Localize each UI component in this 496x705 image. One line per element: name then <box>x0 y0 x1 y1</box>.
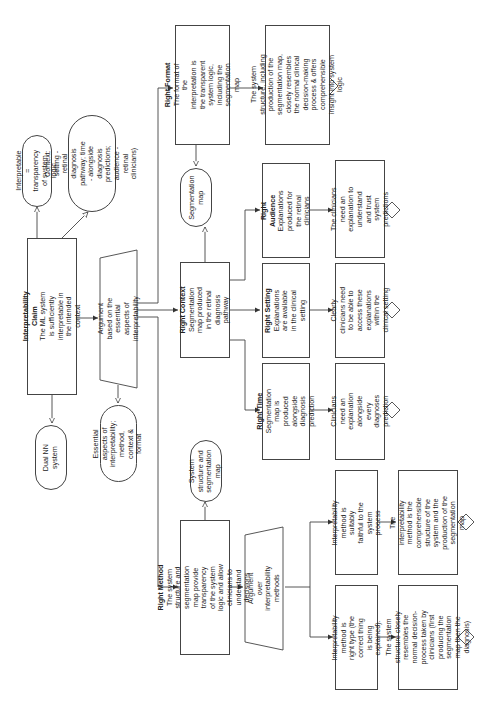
claim-text: The ML system is sufficiently interpreta… <box>39 292 82 342</box>
right-method-text: The system structure and segmentation ma… <box>166 563 252 611</box>
faithful-text: Interpretability method is suitably fait… <box>331 500 383 545</box>
claim-title: Interpretability Claim <box>22 292 39 342</box>
right-setting-text: Explanations are available in the clinic… <box>273 287 308 333</box>
argument-essential-text: Argument based on the essential aspects … <box>97 297 140 342</box>
right-format-text: The format of the interpretation is the … <box>172 58 241 111</box>
faithful-goal: Interpretability method is suitably fait… <box>335 470 378 575</box>
right-audience-text: Explanations produced for the retinal cl… <box>277 188 312 234</box>
right-format-solution-text: The system structure, including producti… <box>250 53 345 116</box>
right-time-solution: Clinicians need an explanation alongside… <box>335 363 385 460</box>
system-structure-context: System structure and segmentation map <box>190 440 222 502</box>
essential-aspects-text: Essential aspects of interpretability; m… <box>93 420 145 467</box>
right-type-solution-text: The system structure closely resembles t… <box>385 609 471 667</box>
right-type-goal: Interpretability method is right type (t… <box>335 585 378 690</box>
segmentation-map-context: Segmentation map <box>180 168 212 227</box>
right-method-goal: Right Method The system structure and se… <box>180 520 230 655</box>
faithful-solution: The interpretability method is the compr… <box>398 470 458 575</box>
context-definition-context: Context: setting - retinal diagnosis pat… <box>68 115 116 212</box>
dual-nn-system-text: Dual NN system <box>42 443 59 473</box>
right-time-goal: Right Time Segmentation map is produced … <box>262 363 310 460</box>
essential-aspects-context: Essential aspects of interpretability; m… <box>100 405 137 482</box>
segmentation-map-text: Segmentation map <box>187 175 204 219</box>
system-structure-text: System structure and segmentation map <box>189 449 224 492</box>
right-type-solution: The system structure closely resembles t… <box>398 585 458 690</box>
right-time-text: Segmentation map is produced alongside d… <box>264 388 316 434</box>
gsn-assurance-diagram: Interpretability Claim The ML system is … <box>0 0 496 705</box>
argument-methods-strategy: Argument over interpretability methods <box>245 535 283 642</box>
right-type-text: Interpretability method is right type (t… <box>331 615 383 660</box>
right-context-goal: Right Context Segmentation map produced … <box>180 262 230 358</box>
interpretability-claim-goal: Interpretability Claim The ML system is … <box>27 238 77 395</box>
right-audience-solution: The clinicians need an explanation to un… <box>335 160 385 258</box>
dual-nn-system-context: Dual NN system <box>35 425 67 490</box>
right-setting-solution: Clearly clinicians need to be able to ac… <box>335 263 385 358</box>
faithful-solution-text: The interpretability method is the compr… <box>389 493 467 551</box>
right-setting-goal: Right Setting Explanations are available… <box>262 263 310 358</box>
right-audience-title: Right Audience <box>260 188 277 234</box>
right-audience-goal: Right Audience Explanations produced for… <box>262 163 310 258</box>
right-setting-solution-text: Clearly clinicians need to be able to ac… <box>330 286 390 334</box>
argument-methods-text: Argument over interpretability methods <box>247 566 282 611</box>
context-definition-text: Context: setting - retinal diagnosis pat… <box>44 141 139 187</box>
right-time-solution-text: Clinicians need an explanation alongside… <box>330 387 390 435</box>
right-audience-solution-text: The clinicians need an explanation to un… <box>330 185 390 233</box>
right-context-text: Segmentation map produced in the retinal… <box>188 286 231 334</box>
right-format-solution: The system structure, including producti… <box>265 25 330 145</box>
argument-essential-strategy: Argument based on the essential aspects … <box>100 258 137 380</box>
right-format-goal: Right Format The format of the interpret… <box>175 25 230 145</box>
